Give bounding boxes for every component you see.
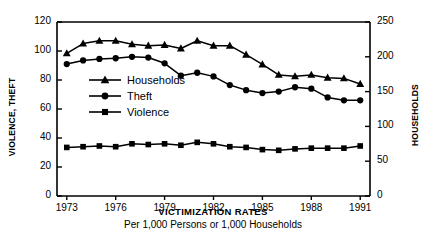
data-point-circle	[292, 84, 298, 90]
data-point-square	[325, 145, 331, 151]
data-point-triangle	[242, 51, 250, 58]
y-tick-label-left: 0	[21, 189, 51, 200]
data-point-square	[309, 145, 315, 151]
data-point-square	[178, 142, 184, 148]
y-tick-label-right: 100	[377, 119, 407, 130]
data-point-square	[145, 142, 151, 148]
y-tick-label-left: 100	[21, 44, 51, 55]
legend-label: Households	[127, 74, 185, 86]
data-point-square	[243, 145, 249, 151]
legend-label: Theft	[127, 90, 152, 102]
legend-item-violence: Violence	[88, 104, 185, 120]
data-point-circle	[102, 93, 109, 100]
data-point-circle	[96, 56, 102, 62]
data-point-square	[194, 140, 200, 146]
data-point-square	[292, 146, 298, 152]
data-point-circle	[113, 55, 119, 61]
x-axis-caption: VICTIMIZATION RATES Per 1,000 Persons or…	[0, 205, 426, 231]
data-point-circle	[357, 97, 363, 103]
data-point-square	[211, 141, 217, 147]
y-tick-label-left: 40	[21, 131, 51, 142]
data-point-circle	[161, 60, 167, 66]
data-point-triangle	[307, 71, 315, 78]
series-violence	[64, 140, 363, 154]
data-point-circle	[80, 57, 86, 63]
data-point-square	[102, 109, 108, 115]
y-tick-label-left: 20	[21, 160, 51, 171]
data-point-square	[341, 145, 347, 151]
y-tick-label-left: 120	[21, 15, 51, 26]
data-point-triangle	[63, 49, 71, 56]
legend-swatch-circle-icon	[88, 89, 122, 103]
data-point-circle	[194, 70, 200, 76]
y-axis-left-title: VIOLENCE, THEFT	[7, 57, 17, 177]
data-point-triangle	[275, 71, 283, 78]
y-tick-label-left: 60	[21, 102, 51, 113]
data-point-square	[97, 143, 103, 149]
data-point-square	[227, 144, 233, 150]
data-point-triangle	[258, 60, 266, 67]
legend-label: Violence	[127, 106, 169, 118]
data-point-square	[260, 147, 266, 153]
data-point-circle	[259, 90, 265, 96]
data-point-triangle	[193, 37, 201, 44]
data-point-circle	[129, 54, 135, 60]
data-point-circle	[341, 97, 347, 103]
data-point-circle	[324, 94, 330, 100]
data-point-circle	[243, 87, 249, 93]
x-axis-subtitle: Per 1,000 Persons or 1,000 Households	[0, 218, 426, 231]
data-point-circle	[210, 73, 216, 79]
chart-figure: VIOLENCE, THEFT HOUSEHOLDS 0204060801001…	[0, 0, 426, 248]
data-point-square	[162, 141, 168, 147]
legend-swatch-triangle-icon	[88, 73, 122, 87]
y-tick-label-left: 80	[21, 73, 51, 84]
data-point-square	[64, 145, 70, 151]
data-point-circle	[227, 82, 233, 88]
data-point-circle	[308, 86, 314, 92]
legend-item-theft: Theft	[88, 88, 185, 104]
y-tick-label-right: 250	[377, 15, 407, 26]
data-point-square	[276, 148, 282, 154]
y-axis-right-title: HOUSEHOLDS	[410, 55, 420, 175]
data-point-circle	[145, 54, 151, 60]
chart-legend: HouseholdsTheftViolence	[88, 72, 185, 120]
y-tick-label-right: 200	[377, 50, 407, 61]
y-tick-label-right: 150	[377, 85, 407, 96]
y-tick-label-right: 0	[377, 189, 407, 200]
data-point-circle	[276, 88, 282, 94]
legend-item-households: Households	[88, 72, 185, 88]
x-axis-title: VICTIMIZATION RATES	[0, 205, 426, 218]
data-point-circle	[64, 61, 70, 67]
data-point-square	[80, 144, 86, 150]
data-point-square	[357, 143, 363, 149]
legend-swatch-square-icon	[88, 105, 122, 119]
data-point-square	[129, 141, 135, 147]
y-tick-label-right: 50	[377, 154, 407, 165]
data-point-square	[113, 144, 119, 150]
